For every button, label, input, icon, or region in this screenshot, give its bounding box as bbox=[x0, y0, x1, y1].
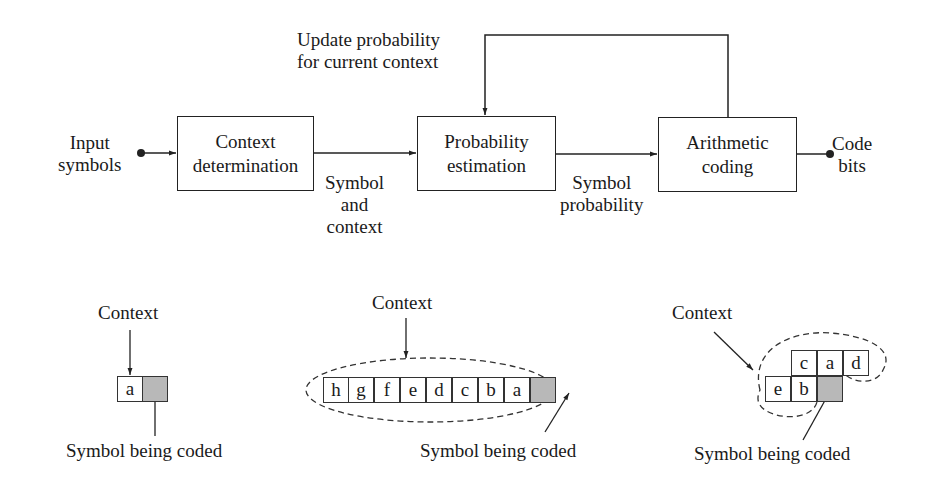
block-label-line1: Context bbox=[215, 130, 275, 154]
input-symbols-label: Input symbols bbox=[58, 132, 121, 176]
example2-cell: c bbox=[452, 377, 478, 403]
arithmetic-coding-block: Arithmetic coding bbox=[658, 117, 797, 192]
example2-context-label: Context bbox=[372, 292, 432, 314]
feedback-label-line1: Update probability bbox=[297, 29, 440, 51]
example3-cell: a bbox=[817, 350, 843, 376]
example3-coded-cell bbox=[817, 376, 843, 402]
block-label-line1: Probability bbox=[444, 130, 528, 154]
example2-cell: e bbox=[400, 377, 426, 403]
block-label-line2: estimation bbox=[447, 154, 526, 178]
edge-label-line2: probability bbox=[560, 194, 643, 216]
symbol-and-context-label: Symbol and context bbox=[325, 172, 384, 238]
output-label-line1: Code bbox=[832, 133, 872, 155]
edge-label-line2: and bbox=[325, 194, 384, 216]
example3-cell: c bbox=[791, 350, 817, 376]
example3-cell: d bbox=[843, 350, 869, 376]
input-label-line1: Input bbox=[58, 132, 121, 154]
example3-coded-label: Symbol being coded bbox=[694, 443, 850, 465]
example3-context-label: Context bbox=[672, 302, 732, 324]
example2-cell: b bbox=[478, 377, 504, 403]
code-bits-label: Code bits bbox=[832, 133, 872, 177]
example2-cell: d bbox=[426, 377, 452, 403]
block-label-line1: Arithmetic bbox=[686, 131, 768, 155]
probability-estimation-block: Probability estimation bbox=[417, 116, 556, 191]
example1-context-label: Context bbox=[98, 302, 158, 324]
example2-coded-cell bbox=[530, 377, 556, 403]
example1-coded-label: Symbol being coded bbox=[66, 440, 222, 462]
example2-cell: g bbox=[348, 377, 374, 403]
example2-cell: f bbox=[374, 377, 400, 403]
edge-label-line3: context bbox=[325, 216, 384, 238]
example2-cell: h bbox=[323, 377, 349, 403]
edge-label-line1: Symbol bbox=[560, 172, 643, 194]
example3-cell: b bbox=[791, 376, 817, 402]
context-determination-block: Context determination bbox=[177, 116, 314, 191]
symbol-probability-label: Symbol probability bbox=[560, 172, 643, 216]
feedback-label-line2: for current context bbox=[297, 51, 440, 73]
example1-cell: a bbox=[117, 376, 143, 402]
example1-coded-cell bbox=[142, 376, 168, 402]
connector-lines bbox=[0, 0, 933, 490]
block-label-line2: determination bbox=[193, 154, 299, 178]
example3-cell: e bbox=[765, 376, 791, 402]
block-label-line2: coding bbox=[702, 155, 754, 179]
example2-coded-label: Symbol being coded bbox=[420, 440, 576, 462]
output-label-line2: bits bbox=[832, 155, 872, 177]
edge-label-line1: Symbol bbox=[325, 172, 384, 194]
example2-cell: a bbox=[504, 377, 530, 403]
input-label-line2: symbols bbox=[58, 154, 121, 176]
feedback-label: Update probability for current context bbox=[297, 29, 440, 73]
